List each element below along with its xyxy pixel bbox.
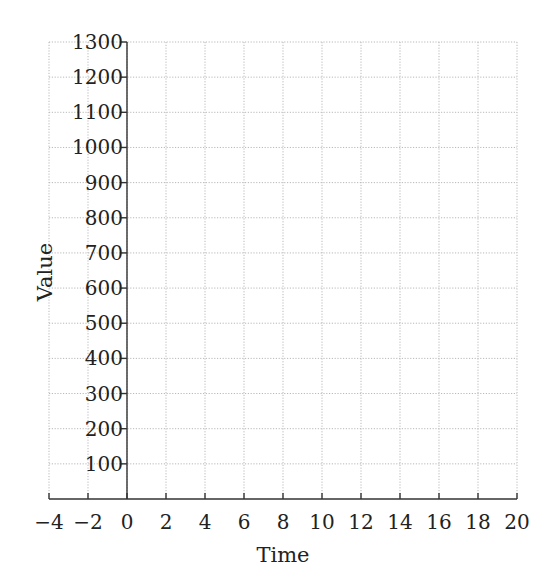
x-tick-label: −2	[73, 510, 102, 534]
x-tick-label: 4	[199, 510, 212, 534]
y-tick-label: 200	[85, 417, 123, 441]
y-tick-label: 500	[85, 311, 123, 335]
y-tick-label: 100	[85, 452, 123, 476]
x-tick-label: 14	[387, 510, 412, 534]
y-tick-label: 1300	[72, 30, 123, 54]
x-tick-label: 8	[277, 510, 290, 534]
y-tick-label: 1000	[72, 135, 123, 159]
x-tick-label: 6	[238, 510, 251, 534]
x-tick-label: −4	[34, 510, 63, 534]
x-tick-label: 0	[121, 510, 134, 534]
y-tick-label: 1100	[72, 100, 123, 124]
y-tick-label: 400	[85, 346, 123, 370]
x-tick-label: 16	[426, 510, 451, 534]
y-tick-label: 600	[85, 276, 123, 300]
y-axis-title: Value	[33, 243, 57, 302]
y-tick-label: 900	[85, 171, 123, 195]
x-tick-label: 12	[348, 510, 373, 534]
y-tick-label: 700	[85, 241, 123, 265]
x-tick-label: 18	[465, 510, 490, 534]
x-axis-title: Time	[256, 543, 309, 567]
x-tick-label: 10	[309, 510, 334, 534]
x-tick-label: 20	[504, 510, 529, 534]
chart: −4−202468101214161820 100200300400500600…	[0, 0, 551, 583]
x-tick-label: 2	[160, 510, 173, 534]
y-tick-label: 300	[85, 382, 123, 406]
y-tick-label: 1200	[72, 65, 123, 89]
y-tick-label: 800	[85, 206, 123, 230]
